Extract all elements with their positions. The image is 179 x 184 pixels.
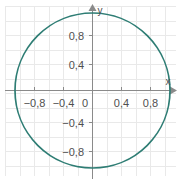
x-tick-label-neg-0-8: −0,8 xyxy=(24,97,46,109)
origin-label: 0 xyxy=(82,97,88,109)
y-tick-label-pos-0-8: 0,8 xyxy=(69,30,84,42)
y-tick-label-pos-0-4: 0,4 xyxy=(69,59,84,71)
x-tick-label-pos-0-8: 0,8 xyxy=(143,97,158,109)
plot-canvas: −0,8 −0,4 0 0,4 0,8 0,8 0,4 −0,4 −0,8 x … xyxy=(0,0,179,184)
unit-circle-figure: −0,8 −0,4 0 0,4 0,8 0,8 0,4 −0,4 −0,8 x … xyxy=(0,0,179,184)
x-axis-label: x xyxy=(166,76,171,87)
y-axis-label: y xyxy=(98,5,103,16)
y-axis xyxy=(89,4,97,179)
y-tick-label-neg-0-4: −0,4 xyxy=(62,117,84,129)
y-tick-label-neg-0-8: −0,8 xyxy=(62,146,84,158)
x-tick-label-neg-0-4: −0,4 xyxy=(53,97,75,109)
x-tick-label-pos-0-4: 0,4 xyxy=(114,97,129,109)
y-axis-arrowhead xyxy=(89,4,97,11)
